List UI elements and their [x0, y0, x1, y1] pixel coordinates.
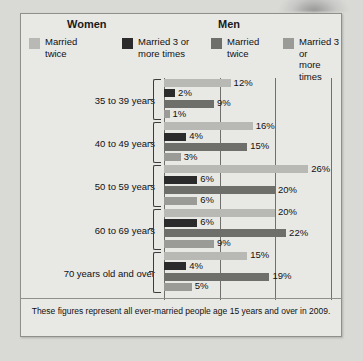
category-label: 35 to 39 years: [95, 95, 155, 106]
bar: [164, 219, 197, 227]
group-brace: [153, 252, 161, 293]
bar: [164, 209, 275, 217]
bar-value-label: 2%: [178, 87, 192, 98]
legend-item-label: Married 3 or more times: [299, 36, 341, 82]
legend-swatch-men-three-plus: [283, 38, 294, 49]
bar-row: 12%: [164, 79, 341, 87]
bar-row: 9%: [164, 240, 341, 248]
legend-swatch-men-twice: [211, 38, 222, 49]
bar-row: 4%: [164, 262, 341, 270]
chart-figure: Women Men Married twiceMarried 3 or more…: [20, 13, 342, 337]
bar-row: 15%: [164, 143, 341, 151]
bar-row: 19%: [164, 273, 341, 281]
category-label: 50 to 59 years: [95, 181, 155, 192]
footnote-divider: [21, 298, 341, 299]
group-brace-tick: [149, 228, 153, 229]
category-label: 70 years old and over: [64, 268, 155, 279]
bar-row: 6%: [164, 197, 341, 205]
bar: [164, 100, 214, 108]
bar-row: 2%: [164, 89, 341, 97]
bar-value-label: 6%: [200, 173, 214, 184]
chart-legend: Married twiceMarried 3 or more timesMarr…: [21, 36, 341, 78]
group-brace-tick: [149, 99, 153, 100]
bar-value-label: 9%: [217, 237, 231, 248]
bar: [164, 283, 192, 291]
bar: [164, 89, 175, 97]
bar: [164, 240, 214, 248]
legend-item-label: Married twice: [227, 36, 259, 59]
bar-value-label: 1%: [173, 108, 187, 119]
bar-value-label: 15%: [250, 140, 269, 151]
bar: [164, 252, 247, 260]
bar-value-label: 9%: [217, 97, 231, 108]
category-label: 60 to 69 years: [95, 225, 155, 236]
bar: [164, 262, 186, 270]
section-header-men: Men: [218, 18, 240, 30]
category-label: 40 to 49 years: [95, 138, 155, 149]
group-brace-tick: [149, 142, 153, 143]
bar-value-label: 15%: [250, 249, 269, 260]
bar-row: 3%: [164, 153, 341, 161]
bar-value-label: 20%: [278, 184, 297, 195]
bar-row: 20%: [164, 209, 341, 217]
legend-swatch-women-three-plus: [122, 38, 133, 49]
bar-value-label: 4%: [189, 130, 203, 141]
group-brace-tick: [149, 185, 153, 186]
chart-plot-area: 35 to 39 years12%2%9%1%40 to 49 years16%…: [21, 78, 341, 300]
chart-group: 50 to 59 years26%6%20%6%: [21, 165, 341, 208]
legend-item: Married twice: [29, 36, 77, 59]
bar-value-label: 6%: [200, 194, 214, 205]
legend-item: Married twice: [211, 36, 259, 59]
bar-value-label: 20%: [278, 206, 297, 217]
bar-row: 22%: [164, 229, 341, 237]
bar: [164, 110, 170, 118]
bar-value-label: 16%: [256, 120, 275, 131]
chart-group: 35 to 39 years12%2%9%1%: [21, 79, 341, 122]
bar-value-label: 4%: [189, 260, 203, 271]
bar: [164, 153, 181, 161]
bar: [164, 197, 197, 205]
bar-row: 15%: [164, 252, 341, 260]
bar-row: 4%: [164, 133, 341, 141]
bar-row: 1%: [164, 110, 341, 118]
bar: [164, 143, 247, 151]
bar-row: 5%: [164, 283, 341, 291]
bar-value-label: 3%: [184, 151, 198, 162]
bar-value-label: 22%: [289, 227, 308, 238]
bar: [164, 186, 275, 194]
group-brace: [153, 79, 161, 120]
bar-row: 6%: [164, 219, 341, 227]
bar: [164, 122, 253, 130]
legend-item: Married 3 or more times: [283, 36, 341, 82]
legend-swatch-women-twice: [29, 38, 40, 49]
scan-artifact: [279, 0, 349, 12]
bar: [164, 79, 231, 87]
bar-value-label: 5%: [195, 280, 209, 291]
section-header-women: Women: [67, 18, 107, 30]
bar-row: 20%: [164, 186, 341, 194]
bar-value-label: 12%: [234, 77, 253, 88]
bar: [164, 176, 197, 184]
group-brace-tick: [149, 271, 153, 272]
legend-item-label: Married twice: [45, 36, 77, 59]
bar-row: 16%: [164, 122, 341, 130]
chart-group: 70 years old and over15%4%19%5%: [21, 252, 341, 295]
group-brace: [153, 209, 161, 250]
bar: [164, 229, 286, 237]
bar-row: 9%: [164, 100, 341, 108]
bar: [164, 133, 186, 141]
chart-footnote: These figures represent all ever-married…: [21, 306, 341, 316]
chart-group: 40 to 49 years16%4%15%3%: [21, 122, 341, 165]
bar-value-label: 19%: [272, 270, 291, 281]
bar-value-label: 6%: [200, 216, 214, 227]
chart-group: 60 to 69 years20%6%22%9%: [21, 209, 341, 252]
bar-row: 26%: [164, 165, 341, 173]
section-headers: Women Men: [21, 14, 341, 36]
bar: [164, 273, 269, 281]
legend-item-label: Married 3 or more times: [138, 36, 189, 59]
bar: [164, 165, 308, 173]
bar-row: 6%: [164, 176, 341, 184]
group-brace: [153, 122, 161, 163]
group-brace: [153, 165, 161, 206]
bar-value-label: 26%: [311, 163, 330, 174]
